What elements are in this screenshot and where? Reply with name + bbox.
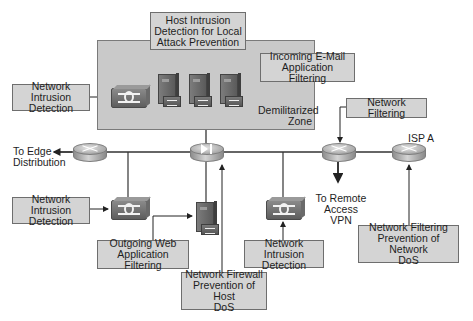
- dmz-server-3-icon: [220, 74, 238, 104]
- callout-line: Prevention of Network: [362, 233, 455, 255]
- callout-line: Detection for Local: [154, 26, 242, 37]
- dmz-label: Demilitarized Zone: [258, 105, 312, 127]
- dmz-label-line2: Zone: [258, 116, 312, 127]
- outgoing-web-callout: Outgoing Web Application Filtering: [97, 240, 189, 269]
- firewall-router-icon: [190, 143, 224, 163]
- isp-router-icon: [392, 143, 426, 163]
- nids-right-callout: Network Intrusion Detection: [244, 240, 324, 268]
- callout-line: Attack Prevention: [157, 37, 239, 48]
- edge-distribution-label: To Edge Distribution: [13, 146, 66, 168]
- callout-line: Application Filtering: [264, 62, 351, 84]
- edge-router-icon: [73, 143, 107, 163]
- callout-line: Network Intrusion: [16, 81, 86, 103]
- callout-line: Network Intrusion: [16, 194, 86, 216]
- dmz-server-2-icon: [189, 74, 207, 104]
- callout-line: Network Filtering: [350, 97, 423, 119]
- incoming-email-callout: Incoming E-Mail Application Filtering: [260, 53, 355, 82]
- callout-line: DoS: [398, 255, 418, 266]
- left-ids-appliance-icon: [111, 200, 147, 220]
- dmz-ids-appliance-icon: [111, 88, 147, 108]
- network-filtering-dos-callout: Network Filtering Prevention of Network …: [358, 225, 459, 263]
- endpoint-line: Distribution: [13, 157, 66, 168]
- host-intrusion-callout: Host Intrusion Detection for Local Attac…: [150, 12, 246, 50]
- web-filter-server-icon: [196, 202, 214, 232]
- dmz-server-1-icon: [158, 74, 176, 104]
- vpn-router-icon: [322, 143, 356, 163]
- endpoint-line: Access VPN: [313, 204, 369, 226]
- nids-left-callout: Network Intrusion Detection: [12, 197, 90, 224]
- callout-line: Detection: [29, 103, 73, 114]
- callout-line: DoS: [214, 302, 234, 313]
- firewall-dos-callout: Network Firewall Prevention of Host DoS: [181, 272, 267, 310]
- callout-line: Host Intrusion: [166, 15, 231, 26]
- callout-line: Network Intrusion: [248, 238, 320, 260]
- callout-line: Prevention of Host: [185, 280, 263, 302]
- callout-line: Detection: [262, 260, 306, 271]
- nids-dmz-callout: Network Intrusion Detection: [12, 84, 90, 111]
- right-ids-appliance-icon: [266, 200, 302, 220]
- callout-line: Application Filtering: [101, 249, 185, 271]
- network-filtering-callout: Network Filtering: [346, 98, 427, 118]
- remote-vpn-label: To Remote Access VPN: [313, 193, 369, 226]
- callout-line: Detection: [29, 216, 73, 227]
